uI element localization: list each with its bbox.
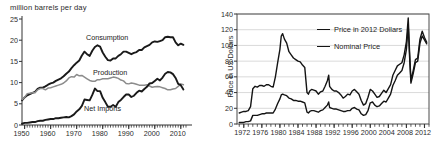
right-legend: Price in 2012 DollarsNominal Price [317,25,402,59]
legend-swatch-icon [317,46,330,47]
legend-item: Nominal Price [317,42,402,51]
right-y-tick: 20 [214,104,233,113]
right-x-tick: 1980 [270,128,286,137]
left-x-tick: 1990 [118,129,134,138]
left-x-tick: 1960 [40,129,56,138]
left-y-tick: 15 [0,57,18,66]
series-label-net-imports: Net Imports [84,104,121,113]
right-x-tick: 1984 [288,128,304,137]
left-y-tick: 5 [0,99,18,108]
right-x-tick: 2008 [397,128,413,137]
right-x-tick: 2000 [361,128,377,137]
right-y-tick: 140 [214,10,233,19]
right-y-tick: 40 [214,88,233,97]
left-y-tick: 10 [0,78,18,87]
right-x-tick: 2012 [415,128,431,137]
series-label-production: Production [93,68,127,77]
right-x-tick: 1972 [234,128,250,137]
left-x-tick: 1980 [92,129,108,138]
left-x-tick: 1970 [66,129,82,138]
dual-chart-figure: million barrels per day 0510152025 19501… [0,0,435,147]
legend-label: Nominal Price [334,42,380,51]
chart-crude-oil-price: Price in US Dollars 020406080100120140 1… [215,0,435,147]
right-y-tick: 60 [214,72,233,81]
legend-swatch-icon [317,29,330,30]
right-y-tick: 120 [214,25,233,34]
right-x-tick: 1992 [325,128,341,137]
left-x-tick: 2000 [144,129,160,138]
right-y-tick: 80 [214,57,233,66]
left-x-tick: 2010 [170,129,186,138]
right-plot-svg [215,0,435,147]
right-x-tick: 1996 [343,128,359,137]
right-x-tick: 1988 [307,128,323,137]
left-y-tick: 25 [0,15,18,24]
series-label-consumption: Consumption [86,33,128,42]
right-x-tick: 2004 [379,128,395,137]
chart-us-petroleum-supply: million barrels per day 0510152025 19501… [0,0,218,147]
right-chart-canvas [215,0,435,147]
legend-item: Price in 2012 Dollars [317,25,402,34]
right-y-tick: 0 [214,120,233,129]
legend-label: Price in 2012 Dollars [334,25,402,34]
left-x-tick: 1950 [14,129,30,138]
right-x-tick: 1976 [252,128,268,137]
right-y-tick: 100 [214,41,233,50]
left-y-tick: 20 [0,36,18,45]
